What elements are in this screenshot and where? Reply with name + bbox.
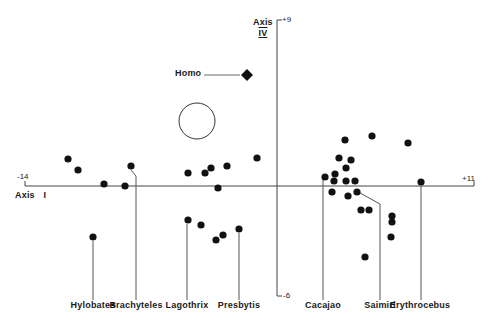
homo-annotation [204,69,253,81]
data-point [223,162,230,169]
x-axis-title-numeral: I [44,190,47,200]
data-point [330,177,337,184]
data-point [388,218,395,225]
data-point [328,188,335,195]
genus-label-brachyteles: Brachyteles [109,300,162,310]
genus-label-cacajao: Cacajao [305,300,341,310]
data-point [64,155,71,162]
data-point [184,216,191,223]
x-axis-line [25,181,474,186]
x-axis-title-word: Axis [15,190,35,200]
data-point [344,192,351,199]
data-point [184,169,191,176]
data-point [357,206,364,213]
data-point [235,225,242,232]
data-point [127,162,134,169]
data-point [214,184,221,191]
x-axis-min-label: -14 [17,172,29,181]
data-points [64,132,424,260]
data-point [100,180,107,187]
data-point [253,154,260,161]
y-axis-title-numeral: IV [253,28,273,39]
data-point [341,136,348,143]
scatter-plot [0,0,492,328]
figure-caption [10,318,482,328]
genus-label-erythrocebus: Erythrocebus [390,300,450,310]
leader-lines [93,170,421,300]
data-point [387,233,394,240]
data-point [361,253,368,260]
x-axis-max-label: +11 [462,174,475,183]
data-point [89,233,96,240]
open-circle-marker [179,103,215,139]
homo-label: Homo [175,68,201,78]
data-point [212,236,219,243]
data-point [351,177,358,184]
homo-diamond-marker [241,69,253,81]
data-point [342,164,349,171]
data-point [331,170,338,177]
genus-label-presbytis: Presbytis [218,300,260,310]
y-axis-title: Axis IV [253,17,273,39]
leader-line-brachyteles [131,170,136,300]
data-point [342,177,349,184]
data-point [201,169,208,176]
data-point [417,178,424,185]
data-point [219,231,226,238]
x-axis-title: Axis I [15,190,46,200]
data-point [404,139,411,146]
data-point [121,182,128,189]
data-point [335,154,342,161]
data-point [207,164,214,171]
y-axis-title-word: Axis [253,17,273,28]
genus-label-lagothrix: Lagothrix [166,300,209,310]
data-point [347,156,354,163]
y-axis-min-label: -6 [283,291,290,300]
data-point [365,206,372,213]
data-point [74,166,81,173]
data-point [321,173,328,180]
y-axis-line [277,20,282,296]
data-point [353,188,360,195]
y-axis-max-label: +9 [282,15,291,24]
axis-lines [25,20,474,296]
data-point [197,221,204,228]
data-point [368,132,375,139]
